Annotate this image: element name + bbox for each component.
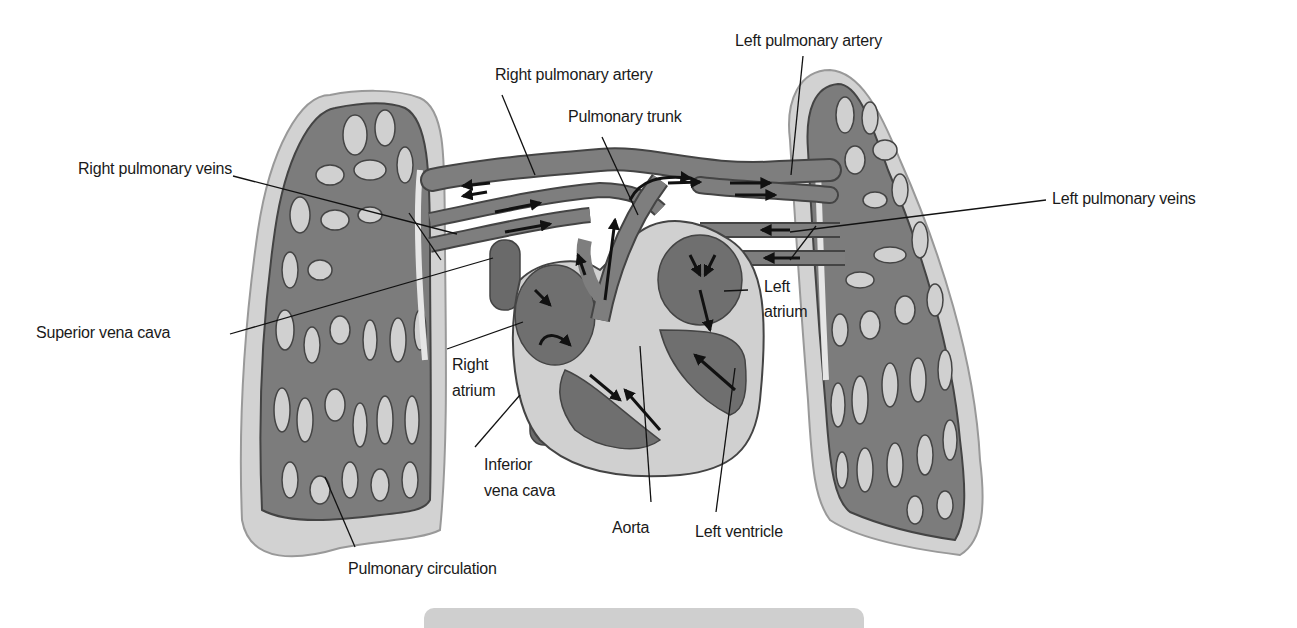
right-lung <box>241 91 446 556</box>
left-lung <box>789 70 983 555</box>
bottom-caption-bar <box>424 608 864 628</box>
label-superior-vena-cava: Superior vena cava <box>36 322 170 343</box>
label-left-pulmonary-veins: Left pulmonary veins <box>1052 188 1196 209</box>
label-left-atrium-line1: Left <box>764 276 790 297</box>
label-right-atrium-line2: atrium <box>452 380 495 401</box>
label-left-ventricle: Left ventricle <box>695 521 783 542</box>
label-inferior-vena-cava-line2: vena cava <box>484 480 555 501</box>
label-right-pulmonary-veins: Right pulmonary veins <box>78 158 232 179</box>
label-right-pulmonary-artery: Right pulmonary artery <box>495 64 652 85</box>
label-right-atrium-line1: Right <box>452 354 488 375</box>
label-aorta: Aorta <box>612 517 649 538</box>
label-inferior-vena-cava-line1: Inferior <box>484 454 532 475</box>
label-pulmonary-trunk: Pulmonary trunk <box>568 106 682 127</box>
label-left-pulmonary-artery: Left pulmonary artery <box>735 30 882 51</box>
label-left-atrium-line2: atrium <box>764 301 807 322</box>
label-pulmonary-circulation: Pulmonary circulation <box>348 558 497 579</box>
